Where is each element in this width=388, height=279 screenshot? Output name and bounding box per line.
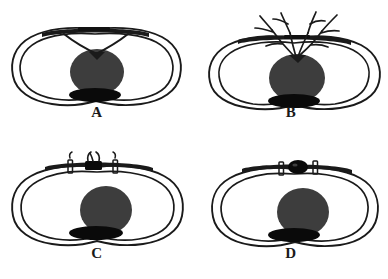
top-bar-thickening xyxy=(78,27,110,31)
figure-root: A xyxy=(0,0,388,279)
center-black-bead xyxy=(288,160,308,174)
panel-a: A xyxy=(0,0,194,139)
panel-c-label: C xyxy=(0,246,194,261)
lower-black-mass xyxy=(69,226,123,240)
center-bead-highlight xyxy=(292,163,297,166)
panel-b-label: B xyxy=(194,105,388,120)
panel-c: C xyxy=(0,140,194,279)
panel-d: D xyxy=(194,140,388,279)
right-bracket-clip xyxy=(113,152,118,173)
branching-filaments xyxy=(255,12,339,57)
panel-a-label: A xyxy=(0,105,194,120)
panel-d-label: D xyxy=(194,246,388,261)
lower-black-mass xyxy=(69,88,121,102)
panel-b: B xyxy=(194,0,388,139)
center-clip-prongs xyxy=(88,152,100,161)
lower-black-mass xyxy=(268,228,320,242)
left-bracket-clip xyxy=(68,152,73,173)
center-clip-body xyxy=(85,161,102,170)
